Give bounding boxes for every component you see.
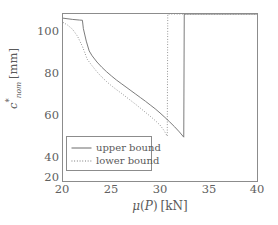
x-axis-title-mu: μ (132, 199, 140, 213)
x-axis-title-variable: P (145, 199, 153, 213)
x-tick-label: 40 (245, 184, 269, 196)
y-axis-title: c*nom[mm] (3, 19, 24, 139)
figure-container: 100 80 60 40 20 20 25 30 35 40 c*nom[mm]… (0, 0, 278, 225)
x-tick-label: 20 (50, 184, 74, 196)
y-axis-title-symbol: c (6, 103, 20, 109)
legend-entry-upper-bound: upper bound (71, 141, 147, 154)
x-axis-title: μ(P)[kN] (62, 200, 258, 213)
y-tick-label: 80 (44, 68, 59, 80)
y-tick-label: 40 (44, 152, 59, 164)
y-axis-title-star: * (4, 98, 14, 102)
x-axis-title-paren-close: ) (153, 199, 158, 213)
legend-line-solid-icon (71, 144, 92, 152)
legend-label: lower bound (96, 156, 159, 166)
chart-legend: upper bound lower bound (66, 136, 152, 171)
legend-line-dotted-icon (71, 157, 92, 165)
legend-entry-lower-bound: lower bound (71, 154, 147, 167)
legend-label: upper bound (96, 143, 161, 153)
x-tick-label: 25 (99, 184, 123, 196)
y-axis-title-unit: [mm] (6, 48, 20, 79)
y-tick-label: 100 (37, 26, 59, 38)
plot-area: upper bound lower bound (62, 13, 258, 182)
x-axis-title-unit: [kN] (161, 199, 188, 213)
y-axis-title-subscript: nom (14, 82, 23, 98)
x-tick-label: 30 (148, 184, 172, 196)
x-tick-label: 35 (197, 184, 221, 196)
series-line-lower-bound (63, 14, 257, 136)
series-line-upper-bound (63, 14, 257, 137)
y-tick-label: 60 (44, 110, 59, 122)
